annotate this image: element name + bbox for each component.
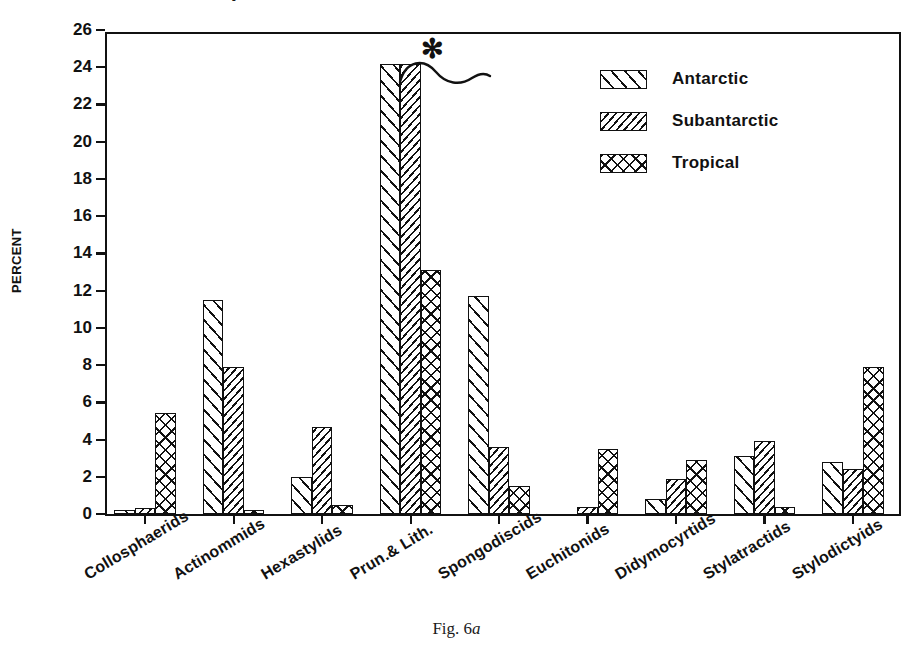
bar <box>244 510 265 514</box>
x-axis-tick <box>233 514 235 524</box>
y-tick-mark <box>96 141 105 143</box>
legend-swatch-diagonal-hatch-dense <box>600 112 647 131</box>
bar <box>155 413 176 514</box>
figure-caption: Fig. 6a <box>0 619 913 639</box>
bar <box>822 462 843 514</box>
y-tick-mark <box>96 401 105 403</box>
y-tick-label: 2 <box>83 467 92 486</box>
bar <box>380 64 401 514</box>
bar <box>734 456 755 514</box>
y-tick-label: 22 <box>73 94 92 113</box>
x-axis-tick <box>498 514 500 524</box>
bar <box>223 367 244 514</box>
legend-swatch-cross-hatch <box>600 154 647 173</box>
y-tick-mark <box>96 66 105 68</box>
y-tick-label: 12 <box>73 281 92 300</box>
legend-item: Subantarctic <box>600 100 860 142</box>
y-tick-mark <box>96 327 105 329</box>
bar <box>421 270 442 514</box>
y-tick-label: 14 <box>73 243 92 262</box>
legend-item: Antarctic <box>600 58 860 100</box>
bar <box>114 510 135 514</box>
bar <box>400 64 421 514</box>
y-tick-label: 6 <box>83 392 92 411</box>
y-tick-mark <box>96 252 105 254</box>
x-axis-tick <box>852 514 854 524</box>
bar <box>598 449 619 514</box>
bar <box>843 469 864 514</box>
y-tick-mark <box>96 290 105 292</box>
y-tick-label: 24 <box>73 57 92 76</box>
bar <box>754 441 775 514</box>
bar <box>203 300 224 514</box>
bar <box>135 508 156 514</box>
y-tick-label: 8 <box>83 355 92 374</box>
bar <box>775 507 796 514</box>
figure-root: G PERCENT 02468101214161820222426 ✻ Anta… <box>0 0 913 653</box>
y-tick-mark <box>96 178 105 180</box>
y-tick-label: 16 <box>73 206 92 225</box>
bar <box>509 486 530 514</box>
y-tick-mark <box>96 29 105 31</box>
y-tick-label: 10 <box>73 318 92 337</box>
y-tick-mark <box>96 439 105 441</box>
caption-prefix: Fig. 6 <box>432 619 472 638</box>
y-tick-label: 0 <box>83 504 92 523</box>
bar <box>312 427 333 514</box>
legend: AntarcticSubantarcticTropical <box>600 58 860 184</box>
x-axis-tick <box>675 514 677 524</box>
bar <box>645 499 666 514</box>
bar <box>291 477 312 514</box>
y-tick-label: 18 <box>73 169 92 188</box>
x-axis-tick <box>586 514 588 524</box>
bar <box>666 479 687 514</box>
x-axis-category-label: Prun.& Lith. <box>347 520 436 583</box>
x-axis-category-label: Stylodictyids <box>789 515 886 583</box>
legend-swatch-diagonal-hatch-sparse <box>600 70 647 89</box>
bar <box>686 460 707 514</box>
legend-label: Subantarctic <box>672 111 779 131</box>
y-tick-label: 20 <box>73 132 92 151</box>
y-tick-mark <box>96 103 105 105</box>
x-axis-tick <box>144 514 146 524</box>
y-tick-mark <box>96 476 105 478</box>
caption-suffix: a <box>472 619 481 638</box>
bar <box>863 367 884 514</box>
x-axis-category-label: Euchitonids <box>523 520 613 584</box>
y-tick-mark <box>96 215 105 217</box>
bar <box>577 507 598 514</box>
clipped-title-fragment: G <box>231 0 253 1</box>
bar <box>332 505 353 514</box>
y-tick-mark <box>96 513 105 515</box>
x-axis-category-label: Hexastylids <box>258 521 345 583</box>
bar <box>489 447 510 514</box>
legend-label: Antarctic <box>672 69 748 89</box>
x-axis-tick <box>410 514 412 524</box>
legend-label: Tropical <box>672 153 740 173</box>
asterisk-annotation-icon: ✻ <box>421 36 444 63</box>
bar <box>468 296 489 514</box>
legend-item: Tropical <box>600 142 860 184</box>
y-tick-label: 4 <box>83 430 92 449</box>
y-tick-mark <box>96 364 105 366</box>
y-tick-label: 26 <box>73 20 92 39</box>
y-axis-title: PERCENT <box>9 211 24 311</box>
x-axis-tick <box>321 514 323 524</box>
x-axis-tick <box>763 514 765 524</box>
